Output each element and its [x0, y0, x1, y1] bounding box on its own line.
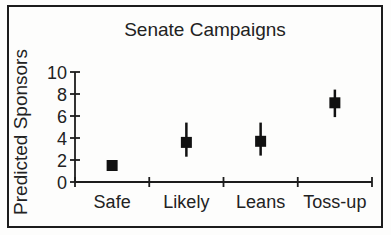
- x-category-label-likely: Likely: [163, 192, 209, 212]
- x-category-label-safe: Safe: [94, 192, 131, 212]
- y-axis: 0246810: [47, 63, 80, 193]
- chart-title: Senate Campaigns: [124, 19, 286, 40]
- y-tick-label: 0: [57, 173, 67, 193]
- y-tick-label: 10: [47, 63, 67, 83]
- senate-campaigns-figure: Senate Campaigns Predicted Sponsors 0246…: [0, 0, 391, 235]
- y-tick-label: 2: [57, 151, 67, 171]
- y-tick-label: 4: [57, 129, 67, 149]
- data-point-toss-up: [329, 97, 340, 108]
- x-axis: SafeLikelyLeansToss-up: [75, 177, 372, 212]
- data-point-safe: [107, 160, 118, 171]
- y-axis-label: Predicted Sponsors: [10, 49, 31, 215]
- y-tick-label: 6: [57, 107, 67, 127]
- data-point-likely: [181, 137, 192, 148]
- x-category-label-leans: Leans: [236, 192, 285, 212]
- data-point-leans: [255, 136, 266, 147]
- chart-canvas: Senate Campaigns Predicted Sponsors 0246…: [0, 0, 391, 235]
- y-tick-label: 8: [57, 85, 67, 105]
- data-series: [107, 90, 341, 171]
- x-category-label-toss-up: Toss-up: [303, 192, 366, 212]
